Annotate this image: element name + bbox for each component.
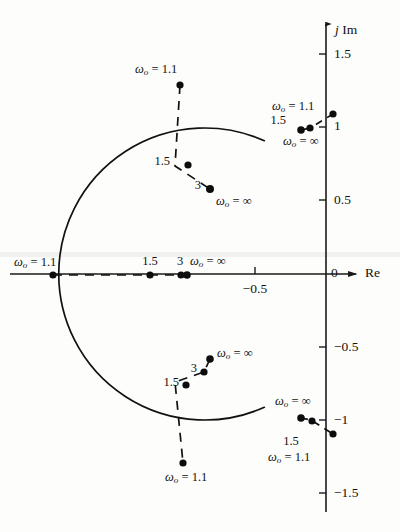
complex-plane-svg: j Im Re 1.5 1 0.5 0 −0.5 −1 −1.5 −0.5 (0, 0, 400, 532)
label-upper-left-omega-inf: ωo = ∞ (216, 194, 252, 209)
label-lower-right-1p5: 1.5 (283, 434, 299, 448)
locus-upper-right-dashed (301, 114, 333, 130)
tick-label-im-1: 1 (334, 118, 341, 133)
label-upper-left-1p5: 1.5 (154, 154, 170, 168)
point-lower-right-omega-inf (297, 414, 305, 422)
point-real-1p5 (146, 271, 153, 278)
label-lower-right-omega-inf: ωo = ∞ (275, 394, 311, 409)
point-lower-left-1p5 (182, 381, 189, 388)
tick-label-im-minus-0p5: −0.5 (334, 339, 359, 354)
point-upper-left-1p5 (184, 161, 191, 168)
tick-label-im-minus-1: −1 (334, 412, 348, 427)
locus-lower-right-dashed (301, 418, 333, 434)
label-upper-left-omega-1p1: ωo = 1.1 (135, 62, 177, 77)
label-lower-left-omega-1p1: ωo = 1.1 (165, 470, 207, 485)
tick-label-im-1p5: 1.5 (334, 46, 351, 61)
axis-label-group: j Im Re 1.5 1 0.5 0 −0.5 −1 −1.5 −0.5 (243, 22, 380, 500)
real-axis-label: Re (365, 265, 380, 280)
tick-label-re-minus-0p5: −0.5 (243, 281, 268, 296)
tick-label-im-minus-1p5: −1.5 (334, 485, 359, 500)
imaginary-axis-label: j Im (333, 22, 358, 37)
point-upper-left-3-and-inf (206, 185, 214, 193)
label-real-1p5: 1.5 (142, 254, 158, 268)
tick-label-im-0: 0 (331, 265, 338, 280)
label-upper-right-1p5: 1.5 (270, 113, 286, 127)
point-real-omega-1p1 (49, 271, 56, 278)
point-upper-right-1p5 (306, 124, 313, 131)
point-lower-left-omega-inf (206, 355, 214, 363)
label-real-omega-1p1: ωo = 1.1 (14, 255, 56, 270)
label-upper-right-omega-inf: ωo = ∞ (283, 134, 319, 149)
label-upper-left-3: 3 (195, 178, 201, 192)
label-lower-left-1p5: 1.5 (163, 375, 179, 389)
label-upper-right-omega-1p1: ωo = 1.1 (272, 99, 314, 114)
point-upper-left-omega-1p1 (176, 81, 183, 88)
label-real-omega-inf: ωo = ∞ (190, 254, 226, 269)
real-axis-arrowhead (348, 271, 358, 277)
point-upper-right-omega-inf (297, 126, 305, 134)
label-lower-left-omega-inf: ωo = ∞ (217, 346, 253, 361)
point-lower-right-omega-1p1 (329, 430, 336, 437)
point-lower-right-1p5 (308, 417, 315, 424)
tick-label-im-0p5: 0.5 (334, 192, 351, 207)
point-real-omega-inf (183, 271, 191, 279)
label-lower-right-omega-1p1: ωo = 1.1 (268, 450, 310, 465)
root-locus-figure: j Im Re 1.5 1 0.5 0 −0.5 −1 −1.5 −0.5 (0, 0, 400, 532)
axis-group (10, 24, 358, 512)
point-lower-left-omega-1p1 (179, 459, 186, 466)
point-upper-right-omega-1p1 (329, 110, 336, 117)
label-real-3: 3 (177, 254, 183, 268)
locus-upper-left-dashed (175, 85, 210, 189)
point-lower-left-3 (200, 368, 207, 375)
label-lower-left-3: 3 (191, 361, 197, 375)
